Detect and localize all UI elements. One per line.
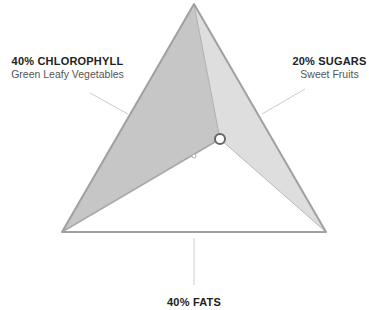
secondary-point-marker bbox=[192, 154, 196, 158]
label-sugars: 20% SUGARS Sweet Fruits bbox=[290, 55, 369, 80]
ternary-triangle-diagram bbox=[0, 0, 369, 310]
label-chlorophyll: 40% CHLOROPHYLL Green Leafy Vegetables bbox=[0, 55, 135, 80]
label-fats: 40% FATS bbox=[144, 296, 244, 308]
label-chlorophyll-subtitle: Green Leafy Vegetables bbox=[0, 68, 135, 80]
label-chlorophyll-title: 40% CHLOROPHYLL bbox=[0, 55, 135, 67]
label-fats-title: 40% FATS bbox=[144, 296, 244, 308]
label-sugars-title: 20% SUGARS bbox=[290, 55, 369, 67]
leader-line-chlorophyll bbox=[90, 93, 128, 114]
composition-point-marker bbox=[215, 134, 225, 144]
leader-line-sugars bbox=[262, 89, 305, 114]
label-sugars-subtitle: Sweet Fruits bbox=[290, 68, 369, 80]
